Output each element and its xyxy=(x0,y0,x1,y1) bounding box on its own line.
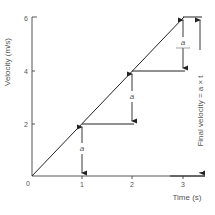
y-axis-title: Velocity (m/s) xyxy=(3,38,12,86)
velocity-line xyxy=(32,17,184,176)
final-velocity-label: Final velocity = a × t xyxy=(196,75,205,147)
label-a-1: a xyxy=(80,144,85,153)
diagram-canvas: 6 4 2 0 1 2 3 Time (s) Velocity (m/s) a xyxy=(0,0,215,215)
x-axis-title: Time (s) xyxy=(172,193,201,202)
x-tick-2: 2 xyxy=(130,181,134,188)
x-tick-3: 3 xyxy=(181,181,185,188)
label-a-3: a xyxy=(181,38,186,47)
y-tick-4: 4 xyxy=(24,68,28,75)
label-a-2: a xyxy=(130,92,135,101)
x-tick-1: 1 xyxy=(80,181,84,188)
origin-label: 0 xyxy=(26,180,30,187)
y-tick-2: 2 xyxy=(24,121,28,128)
velocity-time-diagram: 6 4 2 0 1 2 3 Time (s) Velocity (m/s) a xyxy=(0,0,215,215)
y-tick-6: 6 xyxy=(24,15,28,22)
